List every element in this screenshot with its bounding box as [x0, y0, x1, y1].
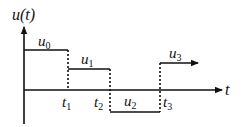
label-u3: u3 — [169, 45, 182, 63]
label-u2: u2 — [124, 93, 137, 111]
signal-diagram: u(t) t u0 u1 u2 u3 t1 t2 t3 — [0, 0, 242, 127]
x-axis-label: t — [225, 81, 230, 98]
y-axis-label: u(t) — [12, 6, 35, 24]
label-u1: u1 — [81, 51, 94, 69]
label-t2: t2 — [94, 94, 103, 112]
label-t1: t1 — [62, 94, 71, 112]
label-t3: t3 — [163, 94, 172, 112]
diagram-svg: u(t) t u0 u1 u2 u3 t1 t2 t3 — [0, 0, 242, 127]
label-u0: u0 — [38, 33, 51, 51]
